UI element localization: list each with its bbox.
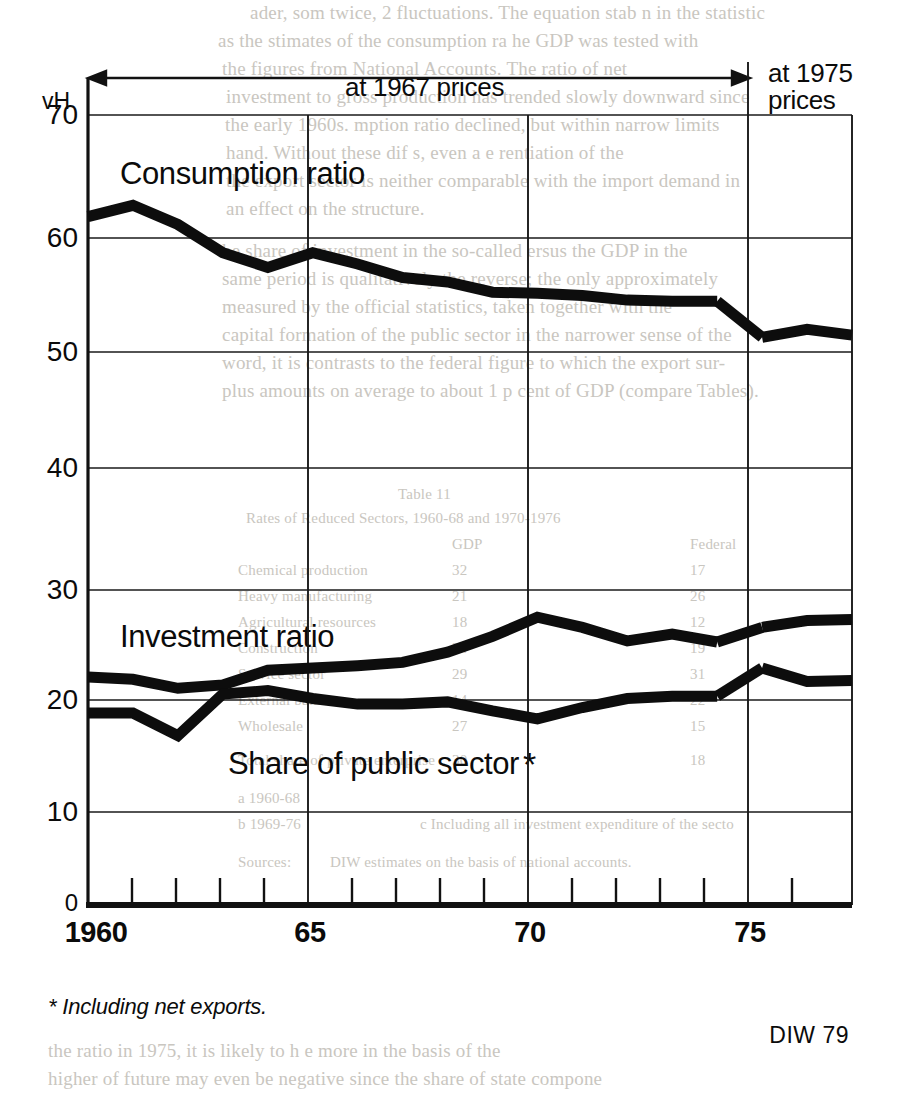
series-line-consumption-ratio: [88, 205, 717, 301]
series-break-connector-1: [717, 627, 762, 642]
x-axis-ticks: [132, 878, 792, 905]
series-break-connector-0: [717, 301, 762, 337]
series-line-share-of-public-sector: [762, 668, 852, 682]
gridlines-vertical: [308, 62, 852, 905]
series-line-share-of-public-sector: [88, 691, 717, 736]
footnote-text: * Including net exports.: [48, 994, 267, 1020]
series-line-consumption-ratio: [762, 329, 852, 337]
price-base-arrow-1967: [88, 71, 750, 85]
plot-area: [0, 0, 901, 1104]
line-chart-figure: at 1967 prices at 1975 prices vH 70 60 5…: [0, 0, 901, 1104]
series-line-investment-ratio: [88, 617, 717, 688]
series-break-connector-2: [717, 668, 762, 696]
source-attribution: DIW 79: [769, 1022, 849, 1049]
data-series-group: [88, 205, 852, 735]
series-line-investment-ratio: [762, 620, 852, 628]
